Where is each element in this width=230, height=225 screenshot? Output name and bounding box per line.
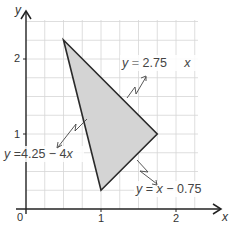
zigzag-arrow-icon: [127, 77, 146, 98]
equation-label-line1: y = 2.75 x: [122, 57, 191, 70]
y-tick-1: 1: [14, 129, 20, 140]
equation-label-line2: y =4.25 − 4x: [4, 148, 73, 161]
y-axis-label: y: [15, 4, 21, 16]
equation-label-line3: y = x − 0.75: [136, 183, 201, 196]
x-tick-2: 2: [173, 213, 179, 224]
zigzag-arrow-icon: [137, 160, 157, 184]
x-axis-label: x: [222, 211, 228, 223]
origin-label: 0: [17, 212, 23, 223]
y-tick-2: 2: [14, 53, 20, 64]
x-tick-1: 1: [98, 213, 104, 224]
